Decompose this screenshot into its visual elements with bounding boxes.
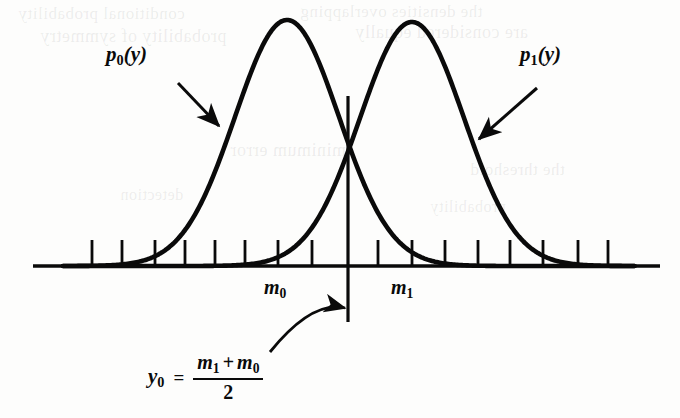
numerator-second-base: m xyxy=(237,351,253,373)
numerator-first-base: m xyxy=(197,351,213,373)
mean-1-base: m xyxy=(391,276,407,298)
pointer-arrow-p1y xyxy=(479,88,537,139)
formula-numerator: m1+m0 xyxy=(193,352,263,378)
threshold-formula: y0 = m1+m0 2 xyxy=(148,352,263,403)
numerator-first-subscript: 1 xyxy=(213,361,220,376)
density-1-base: p xyxy=(520,42,531,66)
formula-plus-operator: + xyxy=(220,351,237,373)
density-1-argument: (y) xyxy=(538,42,561,66)
density-label-p0: p0(y) xyxy=(106,42,147,69)
density-0-base: p xyxy=(106,42,117,66)
formula-lhs: y0 xyxy=(148,364,164,391)
density-label-p1: p1(y) xyxy=(520,42,561,69)
density-1-subscript: 1 xyxy=(531,52,538,68)
density-0-subscript: 0 xyxy=(117,52,124,68)
mean-1-subscript: 1 xyxy=(407,286,414,301)
mean-0-subscript: 0 xyxy=(280,286,287,301)
figure-canvas xyxy=(0,0,680,418)
formula-denominator: 2 xyxy=(223,380,233,403)
pointer-arrow-p0y xyxy=(178,83,219,126)
mean-label-m0: m0 xyxy=(264,276,286,302)
mean-label-m1: m1 xyxy=(391,276,413,302)
numerator-second-subscript: 0 xyxy=(253,361,260,376)
figure-root: conditional probabilitythe densities ove… xyxy=(0,0,680,418)
formula-equals-sign: = xyxy=(171,367,186,389)
formula-lhs-base: y xyxy=(148,364,157,388)
formula-lhs-subscript: 0 xyxy=(157,374,164,390)
density-0-argument: (y) xyxy=(124,42,147,66)
callout-arrow-to-threshold xyxy=(270,307,345,352)
formula-fraction: m1+m0 2 xyxy=(193,352,263,403)
mean-0-base: m xyxy=(264,276,280,298)
